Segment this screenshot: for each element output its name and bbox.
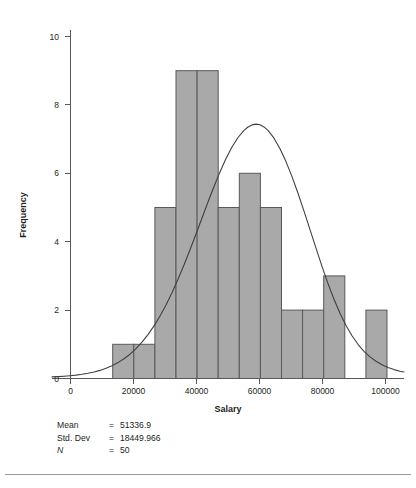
stat-equals-stddev: = (109, 432, 120, 445)
stat-value-stddev: 18449.966 (120, 432, 161, 445)
x-axis-ticks (71, 379, 386, 385)
bar (239, 173, 260, 378)
x-tick-label: 100000 (371, 386, 400, 396)
y-axis-labels: 0 2 4 6 8 10 (50, 32, 60, 384)
bar (324, 276, 345, 379)
y-tick-label: 4 (54, 237, 59, 247)
y-axis-title: Frequency (18, 192, 28, 238)
bar (113, 344, 134, 378)
x-axis-labels: 0 20000 40000 60000 80000 100000 (68, 386, 400, 396)
x-tick-label: 60000 (248, 386, 272, 396)
footer-divider (5, 474, 411, 475)
stat-equals-n: = (109, 444, 120, 457)
y-tick-label: 0 (54, 374, 59, 384)
histogram-plot: 0 2 4 6 8 10 Frequency (0, 0, 416, 418)
x-tick-label: 40000 (185, 386, 209, 396)
x-tick-label: 20000 (122, 386, 146, 396)
bar (155, 208, 176, 379)
y-tick-label: 6 (54, 168, 59, 178)
bar (366, 310, 387, 378)
bar (134, 344, 155, 378)
bar (282, 310, 303, 378)
x-tick-label: 0 (68, 386, 73, 396)
stat-row-stddev: Std. Dev = 18449.966 (57, 432, 161, 445)
stat-equals-mean: = (109, 419, 120, 432)
stat-row-mean: Mean = 51336.9 (57, 419, 161, 432)
y-tick-label: 8 (54, 100, 59, 110)
x-tick-label: 80000 (311, 386, 335, 396)
y-tick-label: 10 (50, 32, 60, 42)
stat-row-n: N = 50 (57, 444, 161, 457)
stat-label-n: N (57, 444, 109, 457)
bar (176, 71, 197, 379)
statistics-annotation: Mean = 51336.9 Std. Dev = 18449.966 N = … (57, 419, 161, 457)
stat-label-stddev: Std. Dev (57, 432, 109, 445)
stat-label-mean: Mean (57, 419, 109, 432)
bar (303, 310, 324, 378)
stat-value-n: 50 (120, 444, 130, 457)
histogram-bars (113, 71, 387, 379)
bar (260, 208, 281, 379)
y-tick-label: 2 (54, 305, 59, 315)
x-axis-title: Salary (214, 404, 241, 414)
histogram-figure: 0 2 4 6 8 10 Frequency (0, 0, 416, 488)
bar (197, 71, 218, 379)
bar (218, 208, 239, 379)
y-axis-ticks (65, 37, 71, 379)
stat-value-mean: 51336.9 (120, 419, 151, 432)
